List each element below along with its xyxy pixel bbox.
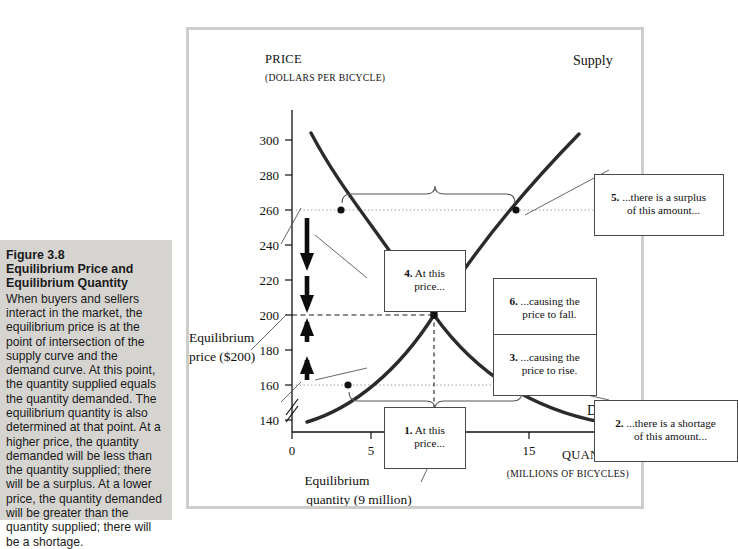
callout-1-line-2: price...: [390, 437, 459, 450]
point-supply-at-160: [344, 381, 351, 388]
price-fall-arrows: [300, 218, 314, 313]
figure-title-line-1: Equilibrium Price and: [6, 262, 133, 276]
y-tick-200: 200: [260, 308, 280, 323]
callout-2-line-1: ...there is a shortage: [624, 417, 716, 429]
callout-6-line-1: ...causing the: [518, 295, 580, 307]
equilibrium-price-label-line-1: Equilibrium: [189, 330, 255, 345]
y-axis-subtitle: (DOLLARS PER BICYCLE): [265, 72, 385, 84]
callout-6-line-2: price to fall.: [499, 308, 590, 321]
callout-5-surplus: 5. ...there is a surplus of this amount.…: [594, 174, 724, 236]
callout-3-line-1: ...causing the: [518, 351, 580, 363]
x-tick-5: 5: [368, 443, 375, 458]
x-tick-0: 0: [289, 443, 296, 458]
callout-1-line-1: At this: [413, 424, 445, 436]
figure-number: Figure 3.8: [6, 248, 65, 262]
y-axis-title: PRICE: [265, 52, 302, 66]
y-tick-160: 160: [260, 378, 280, 393]
y-axis-tick-labels: 300 280 260 240 220 200 180 160 140: [260, 133, 280, 428]
callout-5-line-2: of this amount...: [600, 204, 717, 217]
callout-6-number: 6.: [509, 295, 517, 307]
y-tick-260: 260: [260, 203, 280, 218]
callout-5-line-1: ...there is a surplus: [619, 191, 706, 203]
callout-3-number: 3.: [509, 351, 517, 363]
y-tick-240: 240: [260, 238, 280, 253]
y-tick-140: 140: [260, 413, 280, 428]
figure-caption-body: When buyers and sellers interact in the …: [6, 292, 162, 549]
price-rise-arrows: [300, 318, 314, 380]
callout-1-number: 1.: [404, 424, 412, 436]
callout-2-number: 2.: [615, 417, 623, 429]
callout-2-line-2: of this amount...: [600, 430, 731, 443]
figure-title-line-2: Equilibrium Quantity: [6, 276, 128, 290]
y-tick-180: 180: [260, 343, 280, 358]
callout-1-price: 1. At this price...: [384, 407, 466, 469]
figure-caption-panel: Figure 3.8 Equilibrium Price and Equilib…: [0, 240, 172, 520]
callout-4-line-1: At this: [413, 267, 445, 279]
callout-2-shortage: 2. ...there is a shortage of this amount…: [594, 400, 738, 462]
callout-3-line-2: price to rise.: [499, 364, 590, 377]
equilibrium-quantity-label-line-1: Equilibrium: [304, 473, 370, 488]
callout-4-number: 4.: [404, 267, 412, 279]
callout-6-price-fall: 6. ...causing the price to fall.: [493, 278, 597, 340]
y-axis-ticks: [285, 140, 292, 420]
y-tick-300: 300: [260, 133, 280, 148]
point-equilibrium: [430, 311, 438, 319]
callout-3-price-rise: 3. ...causing the price to rise.: [493, 334, 597, 396]
point-supply-at-260: [512, 206, 519, 213]
y-tick-220: 220: [260, 273, 280, 288]
equilibrium-price-label-line-2: price ($200): [189, 349, 255, 364]
point-demand-at-260: [337, 206, 344, 213]
y-tick-280: 280: [260, 168, 280, 183]
supply-curve-label: Supply: [573, 53, 613, 68]
x-axis-subtitle: (MILLIONS OF BICYCLES): [507, 468, 629, 480]
callout-4-price: 4. At this price...: [384, 250, 466, 312]
surplus-brace: [342, 186, 515, 203]
figure-panel: 300 280 260 240 220 200 180 160 140 0 5 …: [186, 27, 644, 509]
figure-caption-title: Figure 3.8 Equilibrium Price and Equilib…: [6, 248, 162, 291]
x-tick-15: 15: [523, 443, 536, 458]
equilibrium-quantity-label-line-2: quantity (9 million): [306, 492, 412, 506]
callout-4-line-2: price...: [390, 280, 459, 293]
